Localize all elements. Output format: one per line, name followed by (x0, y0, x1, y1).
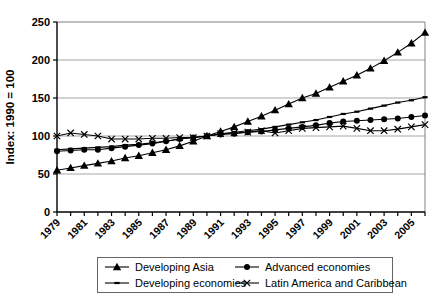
y-tick-label: 50 (38, 168, 50, 180)
triangle-marker (366, 64, 374, 71)
dash-marker (54, 149, 59, 151)
circle-marker (395, 116, 401, 122)
y-axis-title: Index: 1990 = 100 (4, 70, 16, 165)
dash-series-icon (104, 278, 130, 288)
x-tick-label: 1997 (283, 216, 308, 241)
dash-marker (382, 105, 387, 107)
y-tick-label: 200 (32, 54, 50, 66)
dash-marker (109, 146, 114, 148)
x-tick-label: 1983 (92, 216, 117, 241)
triangle-marker (271, 106, 279, 113)
triangle-marker (421, 28, 429, 35)
x-tick-label: 2005 (392, 216, 417, 241)
y-tick-label: 250 (32, 16, 50, 28)
triangle-series-icon (104, 262, 130, 272)
dash-marker (68, 148, 73, 150)
legend-label: Developing economies (135, 278, 246, 289)
legend-item-advanced-economies: Advanced economies (234, 262, 407, 273)
x-tick-label: 1991 (201, 216, 226, 241)
dash-marker (82, 147, 87, 149)
x-tick-label: 1995 (255, 216, 280, 241)
triangle-marker (244, 117, 252, 124)
circle-marker (367, 117, 373, 123)
line-chart-figure: 0501001502002501979198119831985198719891… (0, 0, 447, 307)
x-tick-label: 2003 (365, 216, 390, 241)
series-line-developing-economies (57, 97, 425, 149)
x-series-icon (234, 278, 260, 288)
y-tick-label: 150 (32, 92, 50, 104)
triangle-marker (257, 112, 265, 119)
dash-marker (409, 99, 414, 101)
dash-marker (327, 116, 332, 118)
dash-marker (300, 121, 305, 123)
triangle-marker (394, 48, 402, 55)
dash-marker (114, 282, 119, 284)
triangle-marker (312, 89, 320, 96)
dash-marker (354, 111, 359, 113)
dash-marker (136, 143, 141, 145)
x-tick-label: 1981 (65, 216, 90, 241)
legend-label: Advanced economies (265, 262, 370, 273)
circle-marker (354, 118, 360, 124)
dash-marker (313, 119, 318, 121)
triangle-marker (230, 123, 238, 130)
circle-marker (244, 264, 250, 270)
legend-item-developing-economies: Developing economies (104, 278, 234, 289)
dash-marker (272, 126, 277, 128)
chart-legend: Developing Asia Advanced economies Devel… (97, 257, 393, 293)
x-tick-label: 1987 (146, 216, 171, 241)
dash-marker (150, 142, 155, 144)
dash-marker (286, 124, 291, 126)
legend-label: Developing Asia (135, 262, 214, 273)
legend-label: Latin America and Caribbean (265, 278, 407, 289)
circle-marker (408, 114, 414, 120)
y-tick-label: 0 (44, 206, 50, 218)
triangle-marker (353, 71, 361, 78)
circle-marker (422, 112, 428, 118)
triangle-marker (325, 83, 333, 90)
x-tick-label: 1979 (37, 216, 62, 241)
circle-marker (381, 116, 387, 122)
y-tick-label: 100 (32, 130, 50, 142)
plot-area: 0501001502002501979198119831985198719891… (32, 16, 430, 241)
dash-marker (368, 108, 373, 110)
legend-item-developing-asia: Developing Asia (104, 262, 234, 273)
x-tick-label: 2001 (337, 216, 362, 241)
x-tick-label: 1985 (119, 216, 144, 241)
x-tick-label: 1989 (174, 216, 199, 241)
x-tick-label: 1999 (310, 216, 335, 241)
triangle-marker (339, 77, 347, 84)
legend-item-latin-america: Latin America and Caribbean (234, 278, 407, 289)
dash-marker (422, 96, 427, 98)
dash-marker (341, 113, 346, 115)
triangle-marker (285, 100, 293, 107)
x-tick-label: 1993 (228, 216, 253, 241)
dash-marker (395, 101, 400, 103)
triangle-marker (407, 39, 415, 46)
dash-marker (95, 146, 100, 148)
dash-marker (123, 144, 128, 146)
circle-series-icon (234, 262, 260, 272)
